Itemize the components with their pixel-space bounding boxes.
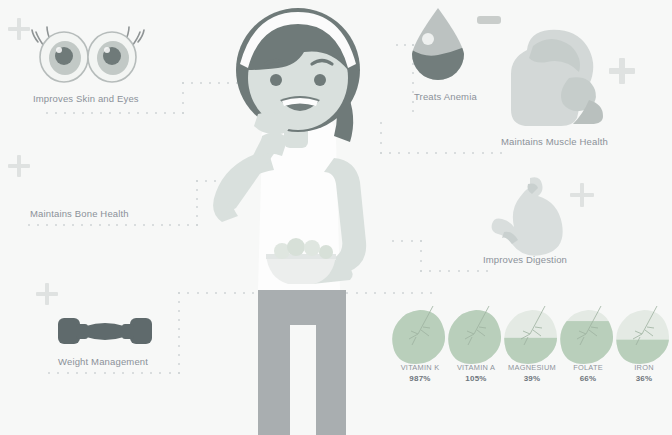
nutrient-value: 36% — [616, 374, 672, 383]
label-bone-health: Maintains Bone Health — [30, 208, 129, 219]
nutrient-item: VITAMIN K987% — [392, 300, 448, 383]
nutrient-value: 39% — [504, 374, 560, 383]
label-skin-eyes: Improves Skin and Eyes — [33, 93, 139, 104]
nutrition-chart: VITAMIN K987%VITAMIN A105%MAGNESIUM39%FO… — [392, 300, 672, 383]
plus-icon-muscle — [609, 58, 635, 84]
blood-drop-icon — [409, 6, 467, 86]
nutrient-value: 66% — [560, 374, 616, 383]
nutrient-value: 105% — [448, 374, 504, 383]
label-muscle-health: Maintains Muscle Health — [501, 136, 608, 147]
stomach-icon — [500, 176, 568, 254]
plus-icon-skin-eyes — [8, 18, 30, 40]
label-weight-management: Weight Management — [58, 356, 148, 367]
infographic-canvas: Improves Skin and Eyes Maintains Bone He… — [0, 0, 672, 435]
nutrient-item: VITAMIN A105% — [448, 300, 504, 383]
leaf-gauge — [392, 300, 448, 362]
plus-icon-bone-health — [8, 155, 30, 177]
plus-icon-weight — [36, 283, 58, 305]
leaf-gauge — [616, 300, 672, 362]
nutrient-item: MAGNESIUM39% — [504, 300, 560, 383]
leaf-gauge — [560, 300, 616, 362]
minus-icon-anemia — [477, 16, 501, 24]
leaf-gauge — [448, 300, 504, 362]
dumbbell-icon — [56, 312, 154, 350]
girl-eating-figure — [196, 4, 406, 435]
label-improves-digestion: Improves Digestion — [483, 254, 567, 265]
eyes-icon — [32, 26, 144, 86]
nutrient-value: 987% — [392, 374, 448, 383]
plus-icon-digestion — [570, 183, 594, 207]
leaf-gauge — [504, 300, 560, 362]
nutrient-item: FOLATE66% — [560, 300, 616, 383]
label-treats-anemia: Treats Anemia — [414, 91, 477, 102]
nutrient-item: IRON36% — [616, 300, 672, 383]
bicep-icon — [509, 28, 611, 126]
